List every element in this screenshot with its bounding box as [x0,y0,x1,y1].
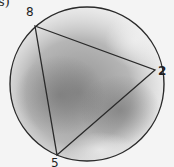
vertex-label-8: 8 [26,5,34,19]
inscribed-triangle-diagram: 8 2 5 [0,0,174,167]
vertex-label-2: 2 [158,64,166,78]
shading [7,4,167,167]
vertex-label-5: 5 [51,156,59,167]
